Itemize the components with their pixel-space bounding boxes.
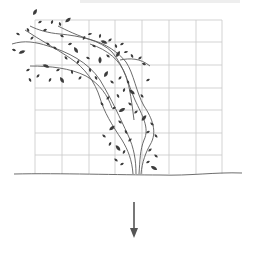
down-arrow-icon [130, 202, 138, 238]
leaf-icon [73, 46, 79, 54]
leaf-icon [146, 160, 151, 164]
trellis-grid [35, 20, 222, 174]
leaf-icon [118, 76, 123, 81]
leaf-icon [154, 154, 159, 159]
leaf-icon [86, 56, 91, 60]
leaf-icon [120, 42, 125, 46]
leaf-icon [128, 138, 133, 143]
vine-stem [30, 26, 146, 174]
leaf-icon [108, 38, 113, 43]
leaf-icon [110, 80, 115, 85]
ground-line [14, 173, 242, 175]
leaf-icon [150, 165, 158, 171]
leaf-icon [124, 51, 129, 54]
leaf-icon [98, 56, 101, 63]
leaf-icon [68, 42, 73, 46]
diagram-canvas [0, 0, 254, 256]
leaf-icon [30, 36, 35, 41]
leaf-icon [116, 94, 120, 99]
leaf-icon [88, 33, 93, 36]
leaf-icon [18, 49, 26, 54]
leaf-icon [103, 70, 109, 78]
vine-stem [25, 30, 133, 174]
leaf-icon [130, 54, 134, 59]
leaf-icon [100, 102, 105, 107]
vine-stems [12, 26, 154, 174]
leaf-icon [16, 32, 21, 36]
leaf-icon [48, 78, 52, 83]
leaf-icon [108, 142, 112, 147]
leaf-icon [36, 74, 41, 79]
leaf-icon [78, 76, 83, 81]
leaf-icon [114, 158, 119, 163]
arrow-head [130, 228, 138, 238]
leaf-icon [38, 20, 43, 24]
top-strip [80, 0, 240, 3]
leaf-icon [12, 48, 17, 52]
leaf-icon [102, 134, 107, 139]
vine-leaves [12, 8, 159, 171]
leaf-icon [134, 110, 139, 115]
leaf-icon [120, 162, 125, 166]
leaf-icon [146, 78, 151, 82]
leaf-icon [32, 8, 38, 16]
leaf-icon [122, 150, 126, 155]
vine-stem [58, 26, 154, 174]
leaf-icon [58, 22, 62, 27]
leaf-icon [114, 144, 121, 152]
leaf-icon [99, 34, 102, 39]
leaf-icon [154, 134, 159, 139]
leaf-icon [28, 78, 32, 83]
vine-trellis-diagram [0, 0, 254, 256]
leaf-icon [26, 68, 31, 72]
